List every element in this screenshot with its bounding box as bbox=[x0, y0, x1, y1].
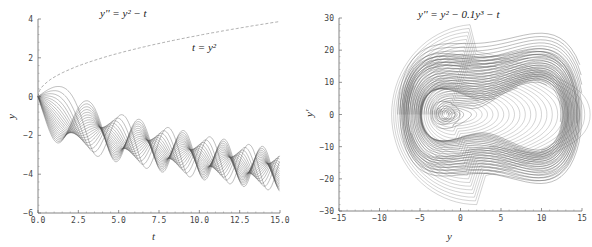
y-tick-label: −6 bbox=[23, 209, 33, 218]
x-tick-label: 7.5 bbox=[152, 216, 167, 225]
right-chart-curves bbox=[392, 25, 590, 205]
x-tick-label: 2.5 bbox=[71, 216, 86, 225]
y-tick-label: 20 bbox=[324, 46, 334, 55]
left-chart-title: y'' = y² − t bbox=[99, 7, 148, 19]
x-tick-label: 0 bbox=[458, 214, 463, 223]
y-tick-label: 4 bbox=[28, 15, 33, 24]
y-tick-label: −30 bbox=[320, 207, 335, 216]
y-tick-label: 0 bbox=[329, 111, 334, 120]
right-chart-xlabel: y bbox=[446, 230, 452, 242]
solution-curve bbox=[38, 94, 280, 184]
left-chart-curves bbox=[38, 87, 280, 192]
solution-curve bbox=[38, 87, 280, 190]
right-chart-title: y'' = y² − 0.1y³ − t bbox=[417, 8, 500, 20]
x-tick-label: 15.0 bbox=[270, 216, 289, 225]
y-tick-label: 10 bbox=[324, 78, 334, 87]
phase-trajectory bbox=[398, 33, 580, 114]
x-tick-label: 10 bbox=[537, 214, 547, 223]
left-chart-xlabel: t bbox=[152, 230, 156, 242]
x-tick-label: −5 bbox=[415, 214, 425, 223]
y-tick-label: −20 bbox=[320, 175, 335, 184]
phase-trajectory bbox=[417, 67, 571, 163]
y-tick-label: 0 bbox=[28, 93, 33, 102]
x-tick-label: 5 bbox=[499, 214, 504, 223]
x-tick-label: 12.5 bbox=[230, 216, 249, 225]
left-chart-parabola-curve bbox=[38, 22, 280, 97]
x-tick-label: 10.0 bbox=[190, 216, 209, 225]
solution-curve bbox=[38, 97, 280, 183]
left-chart-ylabel: y bbox=[5, 114, 17, 120]
right-chart: y'' = y² − 0.1y³ − t −15−10−5051015−30−2… bbox=[303, 8, 590, 242]
y-tick-label: −10 bbox=[320, 143, 335, 152]
y-tick-label: 2 bbox=[28, 54, 33, 63]
left-chart-annotation: t = y² bbox=[192, 41, 217, 53]
left-chart: y'' = y² − t t = y² 0.02.55.07.510.012.5… bbox=[5, 7, 290, 242]
y-tick-label: −4 bbox=[23, 170, 33, 179]
x-tick-label: −10 bbox=[372, 214, 387, 223]
x-tick-label: 5.0 bbox=[111, 216, 126, 225]
solution-curve bbox=[38, 97, 280, 178]
right-chart-ylabel: y' bbox=[303, 109, 315, 118]
solution-curve bbox=[38, 91, 280, 187]
x-tick-label: 15 bbox=[577, 214, 587, 223]
left-chart-axes: 0.02.55.07.510.012.515.0−6−4−2024 bbox=[23, 15, 289, 225]
phase-trajectory bbox=[419, 70, 569, 159]
y-tick-label: −2 bbox=[23, 131, 33, 140]
y-tick-label: 30 bbox=[324, 14, 334, 23]
figure: y'' = y² − t t = y² 0.02.55.07.510.012.5… bbox=[0, 0, 592, 247]
phase-loop bbox=[400, 39, 569, 190]
